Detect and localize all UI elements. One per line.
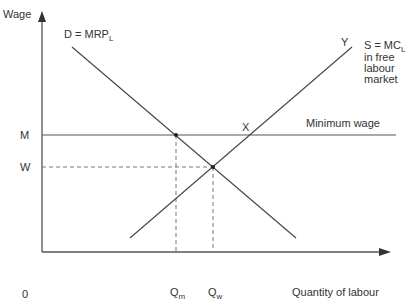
min-wage-demand-point: [174, 133, 178, 137]
y-axis-label: Wage: [3, 8, 31, 20]
supply-label: S = MCL in free labour market: [364, 40, 405, 85]
diagram-canvas: [0, 0, 412, 307]
x-axis-label: Quantity of labour: [292, 286, 379, 298]
supply-label-main: S = MC: [364, 39, 401, 51]
qm-label: Qm: [170, 286, 185, 300]
w-level-label: W: [20, 161, 30, 173]
qw-label-main: Q: [208, 286, 217, 298]
point-x-label: X: [242, 121, 249, 133]
minimum-wage-label: Minimum wage: [306, 117, 380, 129]
qw-label: Qw: [208, 286, 222, 300]
qw-label-sub: w: [217, 292, 223, 301]
demand-label: D = MRPL: [64, 28, 113, 42]
supply-curve: [130, 47, 352, 238]
equilibrium-point: [211, 165, 215, 169]
qm-label-main: Q: [170, 286, 179, 298]
demand-label-main: D = MRP: [64, 28, 109, 40]
y-axis-arrow-icon: [38, 11, 46, 22]
point-y-label: Y: [341, 36, 348, 48]
m-level-label: M: [20, 129, 29, 141]
demand-label-sub: L: [109, 34, 113, 43]
supply-label-sub: L: [401, 45, 405, 54]
origin-label: 0: [22, 288, 28, 300]
demand-curve: [72, 47, 296, 238]
supply-label-line4: market: [364, 74, 405, 85]
x-axis-arrow-icon: [379, 248, 391, 256]
qm-label-sub: m: [179, 292, 186, 301]
